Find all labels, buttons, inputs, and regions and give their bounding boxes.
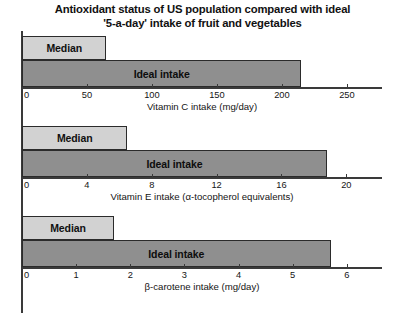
plot-area-vitamin-e: Median Ideal intake [22,126,382,178]
axis-tick-label: 12 [211,180,221,190]
axis-tick [281,174,282,178]
bar-label-median: Median [46,42,82,54]
value-axis-vitamin-c: Vitamin C intake (mg/day) 05010015020025… [22,87,382,111]
axis-tick [239,264,240,268]
axis-tick-label: 3 [182,270,187,280]
axis-tick-label: 20 [341,180,351,190]
axis-tick [76,264,77,268]
axis-tick [130,264,131,268]
bar-label-ideal: Ideal intake [146,158,202,170]
axis-tick [347,264,348,268]
axis-tick-label: 50 [82,90,92,100]
bar-label-median: Median [50,222,86,234]
axis-title-vitamin-c: Vitamin C intake (mg/day) [22,101,382,112]
bar-median-beta-carotene: Median [22,216,114,240]
antioxidant-status-figure: Antioxidant status of US population comp… [0,0,405,317]
axis-tick-label: 0 [24,90,29,100]
axis-tick-label: 250 [339,90,355,100]
bar-label-median: Median [57,132,93,144]
plot-area-beta-carotene: Median Ideal intake [22,216,382,268]
axis-tick [87,84,88,88]
axis-tick-label: 5 [290,270,295,280]
figure-title-line-1: Antioxidant status of US population comp… [0,2,405,16]
axis-tick [87,174,88,178]
bar-ideal-vitamin-c: Ideal intake [22,60,301,87]
axis-line [22,177,382,179]
axis-title-vitamin-e: Vitamin E intake (α-tocopherol equivalen… [22,191,382,202]
axis-tick-label: 16 [276,180,286,190]
axis-tick [152,84,153,88]
value-axis-beta-carotene: β-carotene intake (mg/day) 0123456 [22,267,382,291]
axis-tick-label: 200 [274,90,290,100]
axis-tick [282,84,283,88]
axis-tick-label: 150 [209,90,225,100]
axis-tick-label: 1 [74,270,79,280]
axis-tick-label: 4 [84,180,89,190]
axis-line [22,87,382,89]
axis-tick [217,84,218,88]
bar-label-ideal: Ideal intake [148,248,204,260]
axis-tick [152,174,153,178]
bar-median-vitamin-e: Median [22,126,127,150]
axis-tick [346,174,347,178]
bar-median-vitamin-c: Median [22,36,106,60]
axis-tick [347,84,348,88]
axis-tick [293,264,294,268]
plot-area-vitamin-c: Median Ideal intake [22,36,382,88]
axis-title-beta-carotene: β-carotene intake (mg/day) [22,281,382,292]
axis-tick [184,264,185,268]
bar-label-ideal: Ideal intake [134,68,190,80]
axis-tick [217,174,218,178]
figure-title: Antioxidant status of US population comp… [0,2,405,30]
axis-tick-label: 8 [149,180,154,190]
axis-tick-label: 6 [344,270,349,280]
axis-tick-label: 2 [128,270,133,280]
axis-tick-label: 0 [24,270,29,280]
axis-tick-label: 4 [236,270,241,280]
value-axis-vitamin-e: Vitamin E intake (α-tocopherol equivalen… [22,177,382,201]
axis-tick-label: 0 [24,180,29,190]
axis-line [22,267,382,269]
bar-ideal-beta-carotene: Ideal intake [22,240,331,267]
axis-tick-label: 100 [144,90,160,100]
figure-title-line-2: '5-a-day' intake of fruit and vegetables [0,16,405,30]
